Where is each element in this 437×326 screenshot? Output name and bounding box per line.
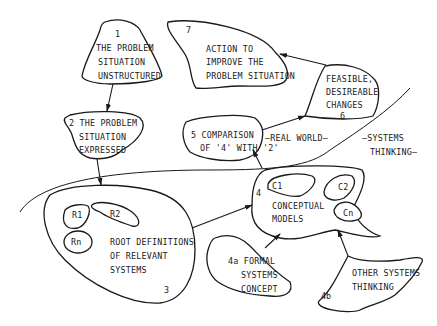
svg-text:DESIREABLE: DESIREABLE bbox=[326, 87, 378, 97]
svg-text:OF '4' WITH '2': OF '4' WITH '2' bbox=[200, 143, 279, 153]
svg-text:Cn: Cn bbox=[343, 208, 353, 218]
svg-text:7: 7 bbox=[186, 25, 191, 35]
label-real-world: —REAL WORLD— bbox=[265, 133, 329, 143]
svg-text:MODELS: MODELS bbox=[272, 214, 303, 224]
svg-text:ACTION TO: ACTION TO bbox=[206, 44, 253, 54]
svg-text:CHANGES: CHANGES bbox=[326, 100, 363, 110]
svg-text:PROBLEM SITUATION: PROBLEM SITUATION bbox=[206, 71, 295, 81]
svg-text:SITUATION: SITUATION bbox=[98, 57, 145, 67]
svg-text:3: 3 bbox=[164, 285, 169, 295]
svg-text:CONCEPTUAL: CONCEPTUAL bbox=[272, 201, 324, 211]
edge-2-to-3 bbox=[97, 159, 101, 185]
svg-text:CONCEPT: CONCEPT bbox=[241, 284, 278, 294]
svg-text:Rn: Rn bbox=[71, 237, 81, 247]
edge-4b-to-4 bbox=[338, 230, 348, 256]
node-4-conceptual-models: C1 C2 Cn 4 CONCEPTUAL MODELS bbox=[252, 166, 380, 239]
svg-text:R1: R1 bbox=[72, 210, 82, 220]
svg-text:OF RELEVANT: OF RELEVANT bbox=[110, 251, 168, 261]
svg-text:FEASIBLE,: FEASIBLE, bbox=[326, 74, 373, 84]
ssm-diagram: 1 THE PROBLEM SITUATION UNSTRUCTURED 2 T… bbox=[0, 0, 437, 326]
svg-text:SYSTEMS: SYSTEMS bbox=[241, 270, 278, 280]
edge-6-to-7 bbox=[280, 54, 326, 65]
svg-text:R2: R2 bbox=[110, 209, 120, 219]
node-6-feasible-changes: FEASIBLE, DESIREABLE CHANGES 6 bbox=[305, 65, 379, 121]
svg-text:ROOT DEFINITIONS: ROOT DEFINITIONS bbox=[110, 237, 194, 247]
edge-5-to-6 bbox=[262, 116, 305, 130]
node-1-problem-unstructured: 1 THE PROBLEM SITUATION UNSTRUCTURED bbox=[82, 20, 162, 84]
svg-text:1: 1 bbox=[115, 29, 120, 39]
svg-text:C1: C1 bbox=[272, 181, 282, 191]
svg-text:6: 6 bbox=[340, 111, 345, 121]
svg-text:4: 4 bbox=[256, 188, 261, 198]
node-4b-other-systems-thinking: OTHER SYSTEMS THINKING 4b bbox=[318, 256, 422, 312]
node-2-problem-expressed: 2 THE PROBLEM SITUATION EXPRESSED bbox=[64, 112, 143, 159]
svg-text:5 COMPARISON: 5 COMPARISON bbox=[191, 130, 254, 140]
svg-text:UNSTRUCTURED: UNSTRUCTURED bbox=[98, 71, 161, 81]
edge-3-to-4 bbox=[192, 205, 252, 228]
svg-text:SITUATION: SITUATION bbox=[79, 132, 126, 142]
svg-text:THINKING: THINKING bbox=[352, 282, 394, 292]
svg-text:SYSTEMS: SYSTEMS bbox=[110, 265, 147, 275]
svg-text:4a FORMAL: 4a FORMAL bbox=[228, 256, 275, 266]
svg-text:4b: 4b bbox=[321, 291, 331, 301]
node-4a-formal-systems-concept: 4a FORMAL SYSTEMS CONCEPT bbox=[207, 236, 291, 297]
label-systems-thinking-1: —SYSTEMS bbox=[362, 133, 404, 143]
node-7-action-to-improve: 7 ACTION TO IMPROVE THE PROBLEM SITUATIO… bbox=[168, 21, 296, 89]
svg-text:IMPROVE THE: IMPROVE THE bbox=[206, 57, 264, 67]
svg-text:2 THE PROBLEM: 2 THE PROBLEM bbox=[69, 118, 137, 128]
svg-text:EXPRESSED: EXPRESSED bbox=[79, 145, 126, 155]
svg-text:OTHER SYSTEMS: OTHER SYSTEMS bbox=[352, 268, 420, 278]
edge-1-to-2 bbox=[107, 84, 113, 111]
label-systems-thinking-2: THINKING— bbox=[370, 147, 418, 157]
node-3-root-definitions: R1 R2 Rn ROOT DEFINITIONS OF RELEVANT SY… bbox=[44, 185, 195, 303]
svg-text:THE PROBLEM: THE PROBLEM bbox=[96, 43, 154, 53]
svg-text:C2: C2 bbox=[338, 182, 348, 192]
